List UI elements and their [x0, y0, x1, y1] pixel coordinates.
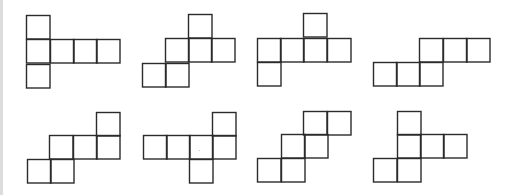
net-square — [258, 159, 282, 183]
cube-net-6 — [144, 113, 237, 184]
net-square — [28, 160, 52, 184]
net-square — [420, 39, 444, 63]
cube-net-2 — [143, 15, 236, 88]
net-square — [304, 39, 328, 63]
cube-net-4 — [374, 39, 491, 87]
net-square — [74, 136, 98, 160]
net-square — [189, 39, 213, 63]
net-square — [467, 39, 491, 63]
net-square — [51, 40, 75, 64]
net-square — [421, 135, 445, 159]
cube-net-8 — [374, 112, 468, 183]
net-square — [398, 159, 422, 183]
net-square — [27, 40, 51, 64]
net-square — [328, 112, 352, 136]
net-square — [398, 112, 422, 136]
net-square — [167, 136, 191, 160]
nets-group — [27, 14, 491, 184]
net-square — [328, 39, 352, 63]
cube-net-7 — [258, 112, 352, 183]
net-square — [190, 160, 214, 184]
net-square — [444, 39, 468, 63]
net-square — [212, 39, 236, 63]
net-square — [258, 63, 282, 87]
net-square — [398, 135, 422, 159]
net-square — [213, 113, 237, 137]
net-square — [97, 113, 121, 137]
net-square — [97, 40, 121, 64]
net-square — [281, 39, 305, 63]
net-square — [189, 15, 213, 39]
net-square — [51, 160, 75, 184]
net-square — [144, 136, 168, 160]
net-square — [304, 14, 328, 38]
net-square — [444, 135, 468, 159]
net-square — [282, 135, 306, 159]
net-square — [50, 136, 74, 160]
net-square — [374, 63, 398, 87]
net-square — [143, 64, 167, 88]
net-square — [190, 136, 214, 160]
cube-nets-diagram — [0, 0, 511, 195]
cube-net-1 — [27, 16, 121, 89]
net-square — [305, 135, 329, 159]
net-square — [258, 39, 282, 63]
net-square — [213, 136, 237, 160]
net-square — [166, 64, 190, 88]
cube-net-3 — [258, 14, 352, 87]
net-square — [166, 39, 190, 63]
net-square — [304, 112, 328, 136]
net-square — [374, 159, 398, 183]
net-square — [397, 63, 421, 87]
net-square — [27, 16, 51, 40]
net-square — [97, 136, 121, 160]
net-square — [27, 65, 51, 89]
net-square — [420, 63, 444, 87]
speck-mark — [199, 150, 200, 151]
net-square — [74, 40, 98, 64]
cube-net-5 — [28, 113, 121, 184]
net-square — [282, 159, 306, 183]
